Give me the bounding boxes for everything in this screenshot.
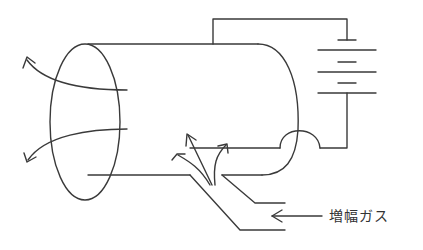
inlet-upper-wall bbox=[222, 175, 285, 203]
upper-beam-arrow bbox=[27, 60, 127, 90]
gas-label-arrow bbox=[272, 210, 322, 222]
wire-crossover-bump bbox=[280, 131, 320, 148]
gas-flow-arrow-right bbox=[214, 145, 226, 185]
lower-beam-arrow bbox=[28, 129, 127, 160]
discharge-tube bbox=[50, 44, 298, 200]
tube-end-ellipse bbox=[50, 44, 120, 200]
tube-right-end bbox=[258, 44, 298, 175]
battery-icon bbox=[318, 40, 376, 93]
bottom-wire bbox=[320, 93, 347, 148]
circuit-wire bbox=[190, 19, 347, 148]
output-beam-arrows bbox=[23, 57, 127, 162]
top-wire bbox=[213, 19, 347, 44]
amplification-gas-label: 増幅ガス bbox=[329, 205, 389, 225]
